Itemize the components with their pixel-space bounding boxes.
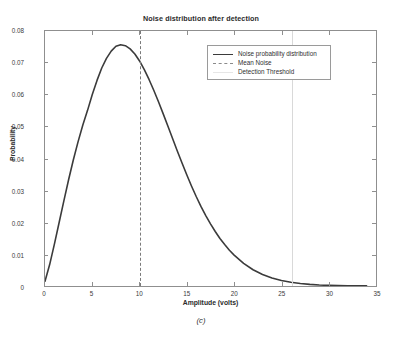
x-tick-label: 15	[175, 290, 199, 297]
x-tick-mark	[187, 282, 188, 287]
y-tick-mark	[372, 94, 376, 95]
y-tick-label: 0.07	[0, 59, 24, 66]
y-tick-mark	[44, 255, 48, 256]
y-tick-mark	[44, 126, 48, 127]
y-tick-label: 0	[0, 284, 24, 291]
y-tick-mark	[44, 223, 48, 224]
y-tick-mark	[44, 62, 48, 63]
x-tick-label: 25	[270, 290, 294, 297]
x-tick-label: 20	[222, 290, 246, 297]
legend-item: Noise probability distribution	[212, 49, 326, 58]
x-tick-mark	[282, 282, 283, 287]
x-tick-mark	[92, 30, 93, 35]
x-tick-label: 10	[127, 290, 151, 297]
legend-line-sample-solid-icon	[212, 49, 234, 58]
figure-caption: (c)	[0, 316, 402, 325]
x-tick-label: 5	[80, 290, 104, 297]
legend-line-sample-dashed-icon	[212, 58, 234, 67]
legend-item: Mean Noise	[212, 58, 326, 67]
y-tick-label: 0.01	[0, 251, 24, 258]
y-tick-label: 0.08	[0, 27, 24, 34]
x-tick-mark	[329, 282, 330, 287]
y-tick-mark	[44, 30, 48, 31]
y-tick-label: 0.02	[0, 219, 24, 226]
y-tick-label: 0.06	[0, 91, 24, 98]
chart-title: Noise distribution after detection	[0, 14, 402, 23]
x-tick-mark	[139, 282, 140, 287]
y-tick-mark	[44, 159, 48, 160]
legend-item: Detection Threshold	[212, 67, 326, 76]
y-tick-mark	[372, 191, 376, 192]
y-axis-label: Probability	[9, 99, 16, 189]
x-tick-mark	[92, 282, 93, 287]
x-tick-label: 30	[317, 290, 341, 297]
x-tick-mark	[187, 30, 188, 35]
y-tick-mark	[372, 62, 376, 63]
x-tick-label: 0	[32, 290, 56, 297]
x-tick-mark	[282, 30, 283, 35]
legend-line-sample-faint-icon	[212, 67, 234, 76]
y-tick-mark	[372, 159, 376, 160]
legend-label: Mean Noise	[238, 58, 272, 67]
x-tick-mark	[329, 30, 330, 35]
y-tick-mark	[372, 126, 376, 127]
y-tick-mark	[372, 30, 376, 31]
x-tick-label: 35	[365, 290, 389, 297]
x-tick-mark	[139, 30, 140, 35]
x-tick-mark	[234, 30, 235, 35]
x-tick-mark	[234, 282, 235, 287]
y-tick-mark	[44, 94, 48, 95]
y-tick-mark	[372, 223, 376, 224]
legend-label: Noise probability distribution	[238, 49, 317, 58]
y-tick-mark	[372, 255, 376, 256]
chart-legend: Noise probability distribution Mean Nois…	[207, 45, 331, 80]
legend-label: Detection Threshold	[238, 67, 294, 76]
mean-noise-vline	[140, 31, 141, 286]
y-tick-mark	[44, 191, 48, 192]
figure-container: Noise distribution after detection 00.01…	[0, 0, 402, 344]
x-axis-label: Amplitude (volts)	[44, 299, 377, 306]
